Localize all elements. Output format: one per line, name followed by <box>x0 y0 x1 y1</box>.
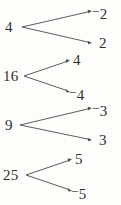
arrow-line-25-to-pos-5 <box>26 160 69 175</box>
arrow-line-9-to-neg-3 <box>20 109 89 125</box>
target-label-neg-3: −3 <box>92 101 107 119</box>
target-value-pos-3: 3 <box>99 132 107 148</box>
arrow-line-4-to-pos-2 <box>22 27 89 42</box>
target-value-pos-5: 5 <box>75 151 83 167</box>
target-label-pos-3: 3 <box>99 133 107 148</box>
arrow-pair-16 <box>0 49 121 101</box>
mapping-group-16: 16 4 −4 <box>0 49 121 101</box>
target-label-neg-2: −2 <box>92 4 107 22</box>
mapping-group-25: 25 5 −5 <box>0 148 121 200</box>
target-value-neg-2: 2 <box>100 6 108 22</box>
minus-sign-icon: − <box>71 184 79 199</box>
arrow-head-25-to-pos-5 <box>68 159 72 162</box>
minus-sign-icon: − <box>92 4 100 19</box>
arrow-line-25-to-neg-5 <box>26 175 69 190</box>
arrow-head-16-to-pos-4 <box>66 60 70 63</box>
minus-sign-icon: − <box>92 101 100 116</box>
diagram-canvas: 4 −2 2 16 4 −4 9 <box>0 0 121 205</box>
arrow-line-16-to-neg-4 <box>24 76 67 91</box>
arrow-line-4-to-neg-2 <box>22 12 89 27</box>
target-value-pos-4: 4 <box>73 52 81 68</box>
target-label-pos-4: 4 <box>73 53 81 68</box>
target-value-neg-5: 5 <box>79 186 87 202</box>
target-label-pos-5: 5 <box>75 152 83 167</box>
arrow-line-16-to-pos-4 <box>24 61 67 76</box>
target-value-neg-3: 3 <box>100 103 108 119</box>
arrow-line-9-to-pos-3 <box>20 125 89 139</box>
mapping-group-4: 4 −2 2 <box>0 0 121 52</box>
mapping-group-9: 9 −3 3 <box>0 98 121 150</box>
target-label-neg-5: −5 <box>71 184 86 202</box>
arrow-head-9-to-pos-3 <box>88 138 92 142</box>
arrow-pair-25 <box>0 148 121 200</box>
arrow-head-4-to-pos-2 <box>88 41 92 45</box>
